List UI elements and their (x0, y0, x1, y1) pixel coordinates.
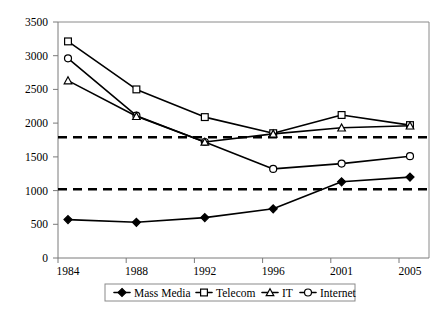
data-point-marker (201, 114, 208, 121)
x-tick-label: 1984 (57, 265, 80, 277)
x-tick-label: 1992 (193, 265, 216, 277)
square-marker-icon (201, 289, 208, 296)
data-point-marker (338, 112, 345, 119)
chart-legend: Mass Media Telecom IT Internet (105, 284, 357, 301)
data-point-marker (407, 153, 414, 160)
y-tick-label: 1500 (25, 151, 48, 163)
x-tick-label: 1988 (125, 265, 148, 277)
x-tick-label: 2005 (399, 265, 422, 277)
data-point-marker (270, 165, 277, 172)
y-tick-label: 0 (42, 252, 48, 264)
circle-marker-icon (305, 289, 312, 296)
y-tick-label: 1000 (25, 185, 48, 197)
data-point-marker (338, 160, 345, 167)
legend-label: Internet (320, 287, 357, 299)
y-tick-label: 2500 (25, 83, 48, 95)
x-tick-label: 1996 (262, 265, 285, 277)
x-tick-label: 2001 (330, 265, 353, 277)
y-tick-label: 3000 (25, 50, 48, 62)
legend-label: Mass Media (134, 287, 191, 299)
line-chart: 0 500 1000 1500 2000 2500 (0, 0, 446, 318)
y-tick-label: 3500 (25, 16, 48, 28)
chart-container: 0 500 1000 1500 2000 2500 (0, 0, 446, 318)
y-tick-label: 500 (31, 218, 49, 230)
legend-label: Telecom (216, 287, 255, 299)
data-point-marker (65, 38, 72, 45)
legend-label: IT (282, 287, 293, 299)
data-point-marker (133, 86, 140, 93)
y-tick-label: 2000 (25, 117, 48, 129)
data-point-marker (65, 55, 72, 62)
